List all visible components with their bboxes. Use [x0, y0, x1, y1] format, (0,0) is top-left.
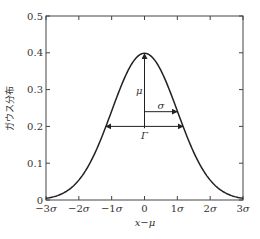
sigma-label: σ: [158, 100, 166, 111]
x-tick-label: 3σ: [236, 203, 250, 214]
x-axis-label: x−μ: [135, 217, 156, 228]
x-tick-label: 2σ: [204, 203, 218, 214]
y-tick-label: 0.2: [27, 121, 43, 132]
x-tick-label: 0: [141, 203, 147, 214]
x-tick-label: 1σ: [171, 203, 185, 214]
gaussian-chart: 00.10.20.30.40.5 −3σ−2σ−1σ01σ2σ3σ μσΓ x−…: [0, 0, 260, 239]
y-axis-ticks: 00.10.20.30.40.5: [27, 11, 243, 206]
x-axis-ticks: −3σ−2σ−1σ01σ2σ3σ: [35, 16, 251, 214]
x-tick-label: −3σ: [35, 203, 58, 214]
x-tick-label: −1σ: [101, 203, 124, 214]
y-tick-label: 0.1: [27, 158, 43, 169]
y-tick-label: 0.3: [27, 84, 43, 95]
gamma-label: Γ: [140, 130, 149, 141]
mu-label: μ: [136, 85, 143, 96]
y-tick-label: 0.4: [27, 47, 43, 58]
y-tick-label: 0.5: [27, 11, 43, 22]
x-tick-label: −2σ: [68, 203, 91, 214]
y-axis-label: ガウス分布: [4, 86, 15, 131]
